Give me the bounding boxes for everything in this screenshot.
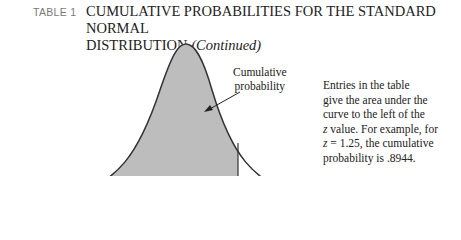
- cumulative-probability-annotation: Cumulative probability: [233, 65, 287, 93]
- table-description: Entries in the table give the area under…: [323, 78, 461, 166]
- shaded-area: [60, 44, 312, 176]
